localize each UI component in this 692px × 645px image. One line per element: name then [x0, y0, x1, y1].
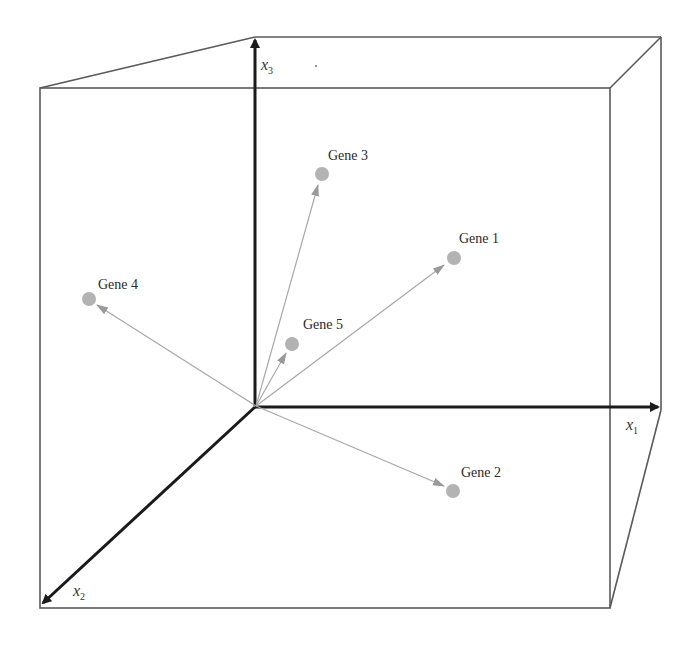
box-top-right-slant: [610, 37, 661, 88]
vector-gene-2: [256, 406, 444, 486]
vector-gene-5: [256, 353, 286, 406]
box-bottom-right-slant: [610, 410, 661, 608]
axis-label-x2: x2: [72, 582, 85, 602]
gene-label-3: Gene 3: [328, 148, 368, 163]
box-front-face: [40, 88, 610, 608]
gene-label-5: Gene 5: [303, 317, 343, 332]
bounding-box: [40, 37, 661, 608]
vector-gene-1: [256, 265, 444, 406]
axis-label-x1: x1: [625, 416, 638, 436]
axes: x3 x1 x2: [43, 40, 658, 603]
vector-gene-3: [256, 185, 318, 406]
gene-label-1: Gene 1: [459, 231, 499, 246]
gene-point-4: [82, 292, 96, 306]
gene-vector-diagram: x3 x1 x2 Gene 3 Gene 1 Gene 4 Gene 5 Gen…: [0, 0, 692, 645]
gene-label-4: Gene 4: [98, 277, 138, 292]
stray-dot: [315, 65, 317, 67]
axis-label-x3: x3: [260, 56, 273, 76]
box-top-left-slant: [40, 37, 255, 88]
gene-point-5: [285, 337, 299, 351]
gene-point-3: [315, 167, 329, 181]
axis-x2: [43, 407, 255, 603]
gene-vectors: Gene 3 Gene 1 Gene 4 Gene 5 Gene 2: [82, 148, 501, 498]
gene-point-2: [446, 484, 460, 498]
gene-label-2: Gene 2: [461, 465, 501, 480]
gene-point-1: [447, 251, 461, 265]
vector-gene-4: [97, 305, 256, 406]
